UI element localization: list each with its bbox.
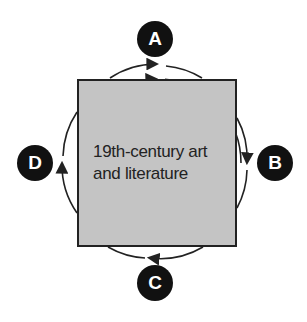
node-b-badge: B: [257, 145, 293, 181]
node-c-badge: C: [137, 265, 173, 301]
node-d-badge: D: [17, 145, 53, 181]
node-a-badge: A: [137, 21, 173, 57]
center-label-line2: and literature: [93, 163, 188, 185]
center-label-line1: 19th-century art: [93, 141, 207, 163]
central-concept-box: 19th-century art and literature: [77, 79, 237, 247]
